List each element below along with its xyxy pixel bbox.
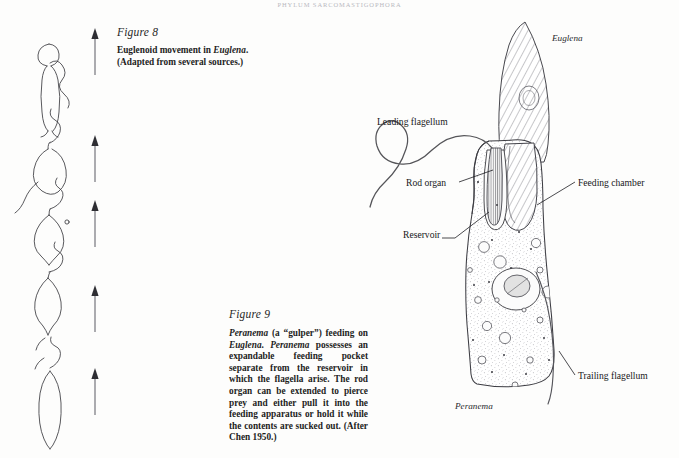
figure9-caption-segment-2: Euglena bbox=[229, 340, 262, 350]
label-leading-flagellum: Leading flagellum bbox=[377, 116, 448, 127]
figure9-caption-segment-1: (a “gulper”) feeding on bbox=[268, 328, 368, 338]
label-trailing-flagellum: Trailing flagellum bbox=[578, 370, 648, 381]
figure9-label: Figure 9 bbox=[229, 308, 368, 320]
leader-trailing-flagellum bbox=[559, 351, 575, 375]
figure9-caption-block: Figure 9 Peranema (a “gulper”) feeding o… bbox=[229, 308, 368, 444]
rod-organ bbox=[487, 148, 502, 225]
label-peranema: Peranema bbox=[455, 401, 493, 411]
figure9-caption-segment-4: Peranema bbox=[270, 340, 309, 350]
label-reservoir: Reservoir bbox=[403, 229, 440, 240]
figure9-caption-segment-3: . bbox=[262, 340, 271, 350]
figure9-caption-segment-0: Peranema bbox=[229, 328, 268, 338]
label-feeding-chamber: Feeding chamber bbox=[578, 177, 644, 188]
label-euglena: Euglena bbox=[552, 33, 583, 43]
peranema-nucleus bbox=[492, 268, 540, 310]
label-rod-organ: Rod organ bbox=[406, 177, 446, 188]
peranema-body bbox=[466, 140, 557, 398]
figure9-caption-segment-5: possesses an expandable feeding pocket s… bbox=[229, 340, 368, 443]
page-sheet: PHYLUM SARCOMASTIGOPHORA bbox=[0, 0, 679, 458]
figure9-caption-text: Peranema (a “gulper”) feeding on Euglena… bbox=[229, 328, 368, 444]
